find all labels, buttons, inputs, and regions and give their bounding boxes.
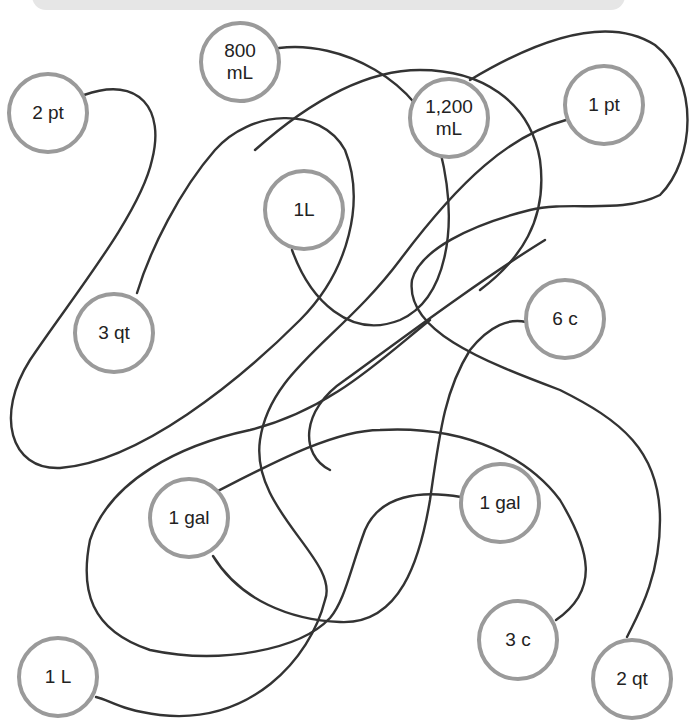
node-label: 3 qt [98,322,130,344]
node-1-gal-left[interactable]: 1 gal [148,477,230,559]
node-2-qt[interactable]: 2 qt [591,638,673,720]
node-label: 1,200 mL [425,96,473,140]
node-label: 1 gal [479,492,520,514]
node-label: 800 mL [224,40,256,84]
node-2-pt[interactable]: 2 pt [7,72,89,154]
node-label: 2 qt [616,668,648,690]
node-3-c[interactable]: 3 c [477,599,559,681]
node-800-ml[interactable]: 800 mL [199,21,281,103]
curve-1gal-3c [87,320,461,656]
node-6-c[interactable]: 6 c [524,278,606,360]
node-1200-ml[interactable]: 1,200 mL [408,77,490,159]
node-label: 1 gal [168,507,209,529]
node-label: 2 pt [32,102,64,124]
node-3-qt[interactable]: 3 qt [73,292,155,374]
node-label: 1L [293,199,314,221]
node-1l-top[interactable]: 1L [263,169,345,251]
node-label: 3 c [505,629,530,651]
node-label: 1 L [45,666,71,688]
node-label: 6 c [552,308,577,330]
node-1-gal-right[interactable]: 1 gal [459,462,541,544]
node-1-pt[interactable]: 1 pt [563,64,645,146]
node-1l-bottom[interactable]: 1 L [17,636,99,718]
node-label: 1 pt [588,94,620,116]
